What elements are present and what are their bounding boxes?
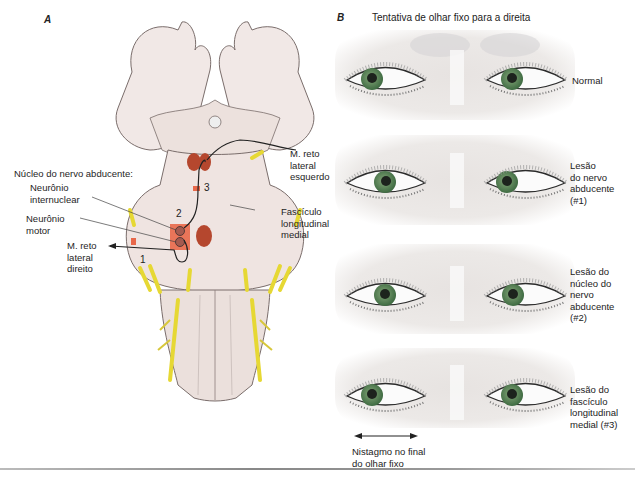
caption-mlf-lesion: Lesão do fascículo longitudinal medial (… — [570, 384, 618, 430]
eye-row-abducens-nerve-lesion — [335, 135, 575, 225]
caption-abducens-nerve-lesion: Lesão do nervo abducente (#1) — [570, 160, 614, 206]
eye-row-normal — [335, 30, 575, 120]
nystagmus-arrow — [354, 433, 418, 439]
eye-rows-illustration — [0, 0, 635, 482]
bottom-rule — [0, 468, 635, 470]
nystagmus-note: Nistagmo no final do olhar fixo — [352, 446, 425, 469]
caption-normal: Normal — [572, 75, 603, 87]
eye-row-mlf-lesion — [335, 348, 575, 428]
eye-row-abducens-nucleus-lesion — [335, 244, 575, 334]
caption-abducens-nucleus-lesion: Lesão do núcleo do nervo abducente (#2) — [570, 266, 614, 324]
